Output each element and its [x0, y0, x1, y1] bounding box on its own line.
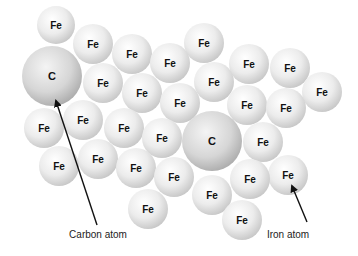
iron-atom-label: Fe: [244, 174, 256, 185]
iron-atom: Fe: [128, 189, 168, 229]
iron-atom: Fe: [150, 43, 190, 83]
iron-atom-label: Fe: [168, 172, 180, 183]
carbon-atom: C: [22, 46, 82, 106]
atoms-layer: FeFeFeFeFeFeFeCFeFeFeFeFeFeFeFeFeFeFeCFe…: [22, 6, 342, 240]
iron-atom: Fe: [154, 157, 194, 197]
iron-atom: Fe: [184, 23, 224, 63]
iron-atom: Fe: [270, 48, 310, 88]
iron-atom: Fe: [302, 72, 342, 112]
iron-atom-label: Fe: [87, 39, 99, 50]
iron-atom: Fe: [268, 155, 308, 195]
iron-atom-label: Fe: [38, 123, 50, 134]
iron-atom-label: Fe: [236, 215, 248, 226]
iron-atom: Fe: [112, 34, 152, 74]
iron-atom-label: Fe: [206, 190, 218, 201]
iron-atom: Fe: [243, 122, 283, 162]
iron-atom-label: Fe: [77, 115, 89, 126]
iron-atom: Fe: [24, 108, 64, 148]
iron-atom: Fe: [116, 148, 156, 188]
iron-atom: Fe: [222, 200, 262, 240]
iron-atom-label: Fe: [282, 170, 294, 181]
iron-atom-label: Fe: [241, 100, 253, 111]
iron-atom-label: Fe: [92, 154, 104, 165]
iron-atom-caption: Iron atom: [267, 229, 309, 240]
iron-atom-label: Fe: [198, 38, 210, 49]
iron-atom-label: Fe: [97, 78, 109, 89]
iron-pointer-arrow-icon: [292, 186, 307, 222]
iron-atom: Fe: [78, 139, 118, 179]
iron-atom-label: Fe: [118, 123, 130, 134]
iron-atom: Fe: [73, 24, 113, 64]
iron-atom-label: Fe: [50, 20, 62, 31]
carbon-atom-caption: Carbon atom: [69, 229, 127, 240]
iron-carbon-lattice-diagram: FeFeFeFeFeFeFeCFeFeFeFeFeFeFeFeFeFeFeCFe…: [0, 0, 358, 256]
iron-atom-label: Fe: [316, 87, 328, 98]
iron-atom: Fe: [266, 88, 306, 128]
iron-atom: Fe: [227, 85, 267, 125]
iron-atom: Fe: [83, 63, 123, 103]
iron-atom-label: Fe: [164, 58, 176, 69]
iron-atom-label: Fe: [243, 59, 255, 70]
iron-atom-label: Fe: [280, 103, 292, 114]
iron-atom-label: Fe: [53, 161, 65, 172]
iron-atom-label: Fe: [284, 63, 296, 74]
iron-atom: Fe: [104, 108, 144, 148]
carbon-atom-label: C: [48, 70, 56, 82]
iron-atom: Fe: [194, 62, 234, 102]
iron-atom: Fe: [122, 73, 162, 113]
iron-atom: Fe: [230, 159, 270, 199]
carbon-atom: C: [182, 111, 242, 171]
iron-atom-label: Fe: [142, 204, 154, 215]
iron-atom-label: Fe: [126, 49, 138, 60]
iron-atom-label: Fe: [136, 88, 148, 99]
iron-atom: Fe: [37, 6, 75, 44]
iron-atom: Fe: [229, 44, 269, 84]
iron-atom-label: Fe: [174, 98, 186, 109]
carbon-atom-label: C: [208, 135, 216, 147]
iron-atom-label: Fe: [156, 133, 168, 144]
iron-atom: Fe: [63, 100, 103, 140]
iron-atom-label: Fe: [257, 137, 269, 148]
iron-atom-label: Fe: [130, 163, 142, 174]
iron-atom-label: Fe: [208, 77, 220, 88]
